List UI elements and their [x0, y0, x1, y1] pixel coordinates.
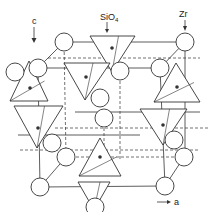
si-center-dot [161, 123, 165, 127]
a-axis-label-group: a [157, 197, 179, 207]
c-axis-arrow-icon [32, 38, 37, 43]
zr-atom [165, 131, 183, 149]
sio4-label: SiO4 [100, 12, 119, 23]
zr-atom [29, 59, 47, 77]
zr-atom [91, 89, 109, 107]
sio4-tetrahedron [79, 138, 121, 176]
si-center-dot [98, 155, 102, 159]
zr-atom [43, 134, 61, 152]
a-axis-label: a [174, 197, 179, 207]
zr-atom [176, 33, 194, 51]
c-axis-label-group: c [32, 16, 38, 43]
zr-atom [57, 148, 75, 166]
zr-atom [6, 63, 24, 81]
si-center-dot [84, 75, 88, 79]
crystal-structure-diagram: c SiO4 Zr a [0, 0, 222, 212]
a-axis-arrow-icon [167, 200, 171, 204]
c-axis-label: c [32, 16, 37, 26]
zr-atom [86, 198, 104, 212]
zr-atom [175, 148, 193, 166]
zr-atom [55, 33, 73, 51]
zr-atom [156, 177, 174, 195]
sio4-arrow-icon [105, 29, 109, 33]
zr-atom [95, 109, 113, 127]
zr-label-group: Zr [179, 9, 188, 31]
zr-atom [31, 178, 49, 196]
zircon-crystal-structure-figure: c SiO4 Zr a [0, 0, 222, 212]
si-center-dot [110, 46, 114, 50]
si-center-dot [36, 126, 40, 130]
si-center-dot [175, 85, 179, 89]
zr-arrow-icon [183, 26, 187, 31]
zr-label: Zr [179, 9, 188, 19]
zr-atom [111, 62, 129, 80]
si-center-dot [28, 86, 32, 90]
sio4-label-group: SiO4 [100, 12, 119, 33]
zr-atom [151, 59, 169, 77]
